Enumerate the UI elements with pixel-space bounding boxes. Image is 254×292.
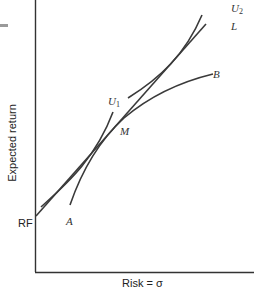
rf-label: RF bbox=[18, 218, 33, 229]
u1-subscript: 1 bbox=[116, 100, 120, 109]
u2-label: U2 bbox=[231, 3, 243, 16]
u1-label: U1 bbox=[108, 96, 120, 109]
u1-letter: U bbox=[108, 95, 116, 107]
m-label: M bbox=[120, 126, 129, 137]
u2-subscript: 2 bbox=[239, 7, 243, 16]
curve-u1 bbox=[41, 112, 113, 207]
diagram-canvas bbox=[0, 0, 254, 292]
curve-a-b bbox=[70, 74, 213, 205]
l-label: L bbox=[231, 21, 237, 32]
diagram: Expected return RF Risk = σ A M B L U1 U… bbox=[0, 0, 254, 292]
u2-letter: U bbox=[231, 2, 239, 14]
x-axis-label: Risk = σ bbox=[122, 278, 163, 289]
curve-u2 bbox=[128, 15, 202, 98]
y-axis-label: Expected return bbox=[6, 93, 18, 193]
a-label: A bbox=[66, 216, 73, 227]
b-label: B bbox=[213, 69, 220, 80]
